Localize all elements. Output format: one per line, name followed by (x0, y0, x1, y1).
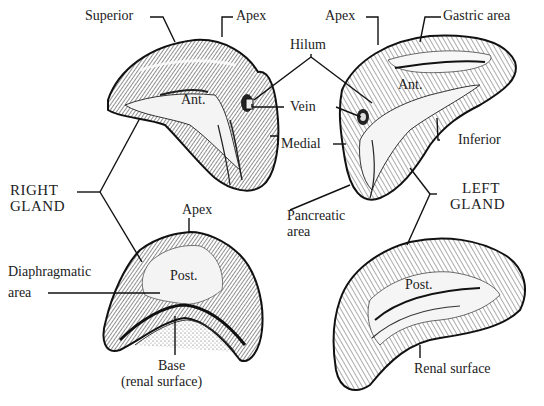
label-pancreatic-line1: Pancreatic (287, 208, 345, 223)
label-pancreatic-line2: area (287, 224, 310, 239)
label-base-line2: (renal surface) (121, 374, 202, 389)
label-diaphragmatic-line2: area (8, 285, 31, 300)
label-base-line1: Base (158, 358, 185, 373)
label-inferior: Inferior (458, 132, 501, 147)
label-left-gland-line2: GLAND (450, 197, 505, 212)
label-apex-right-anterior: Apex (236, 8, 266, 23)
label-post-left: Post. (405, 277, 433, 292)
label-right-gland-line1: RIGHT (10, 183, 58, 198)
label-right-gland-line2: GLAND (10, 199, 65, 214)
label-hilum: Hilum (290, 37, 326, 52)
label-medial: Medial (281, 136, 321, 151)
label-vein: Vein (290, 99, 316, 114)
right-gland-anterior-view (108, 40, 278, 191)
label-renal-surface: Renal surface (414, 361, 491, 376)
label-post-right: Post. (170, 268, 198, 283)
label-ant-right: Ant. (181, 92, 206, 107)
label-apex-left-anterior: Apex (325, 8, 355, 23)
label-diaphragmatic-line1: Diaphragmatic (8, 264, 91, 279)
label-ant-left: Ant. (398, 77, 423, 92)
label-left-gland-line1: LEFT (462, 181, 500, 196)
label-apex-right-posterior: Apex (182, 202, 212, 217)
label-superior: Superior (85, 8, 133, 23)
left-gland-anterior-view (340, 36, 516, 200)
adrenal-gland-figure: Superior Apex Apex Gastric area Hilum An… (0, 0, 544, 406)
label-gastric-area: Gastric area (443, 8, 510, 23)
right-gland-posterior-view (104, 232, 263, 361)
